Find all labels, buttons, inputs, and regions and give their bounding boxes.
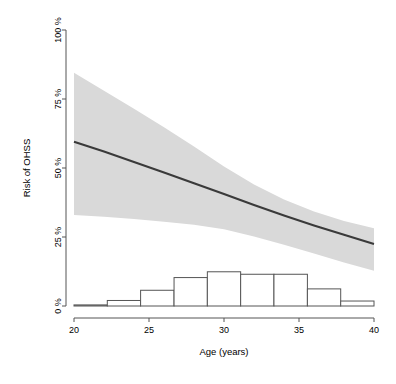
x-axis-title: Age (years) [199,346,248,357]
histogram-bar [141,290,174,306]
x-tick-label: 20 [69,325,79,335]
y-tick-label: 75 % [53,89,63,110]
histogram-bar [174,278,207,306]
histogram-bar [207,272,240,306]
y-axis-tick-labels: 0 %25 %50 %75 %100 % [53,17,63,314]
x-axis-tick-labels: 2025303540 [69,325,379,335]
confidence-band-area [74,73,374,271]
histogram-bar [74,305,107,306]
x-tick-label: 30 [219,325,229,335]
y-axis-title: Risk of OHSS [21,139,32,198]
x-tick-label: 25 [144,325,154,335]
y-tick-label: 50 % [53,158,63,179]
x-axis [74,318,374,322]
age-histogram [74,272,374,306]
histogram-bar [341,301,374,306]
y-tick-label: 25 % [53,227,63,248]
chart-figure: 0 %25 %50 %75 %100 % 2025303540 Risk of … [0,0,396,384]
histogram-bar [241,274,274,306]
histogram-bar [307,289,340,306]
x-tick-label: 35 [294,325,304,335]
y-tick-label: 0 % [53,298,63,314]
histogram-bar [107,300,140,306]
y-tick-label: 100 % [53,17,63,43]
x-tick-label: 40 [369,325,379,335]
risk-of-ohss-plot: 0 %25 %50 %75 %100 % 2025303540 Risk of … [0,0,396,384]
histogram-bar [274,274,307,306]
